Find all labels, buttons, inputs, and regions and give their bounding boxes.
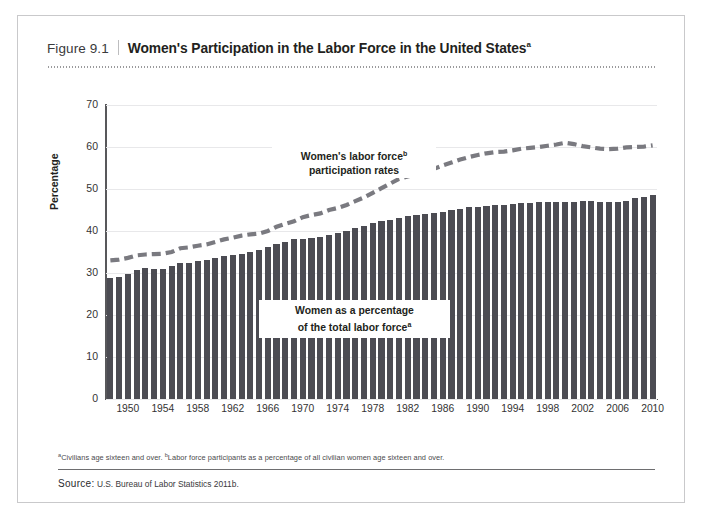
x-axis-tick-label: 1958: [181, 403, 215, 414]
x-axis-tick-label: 1966: [251, 403, 285, 414]
annotation-line-label: Women's labor forceb participation rates: [272, 146, 436, 178]
x-axis-tick-label: 1954: [146, 403, 180, 414]
x-axis-tick-label: 1962: [216, 403, 250, 414]
x-axis-tick-label: 1950: [111, 403, 145, 414]
x-axis-tick-label: 2010: [636, 403, 670, 414]
annotation-bar-label: Women as a percentage of the total labor…: [259, 300, 450, 338]
x-axis-tick-label: 2002: [566, 403, 600, 414]
x-axis-tick-label: 1974: [321, 403, 355, 414]
footnote: aCivilians age sixteen and over. bLabor …: [58, 452, 658, 462]
annotation-line-text-1: Women's labor force: [301, 151, 403, 162]
source-label: Source:: [58, 478, 95, 489]
x-axis-tick-label: 1978: [356, 403, 390, 414]
annotation-bar-text-2: of the total labor force: [298, 322, 408, 333]
source-line: Source: U.S. Bureau of Labor Statistics …: [58, 478, 239, 489]
source-text: U.S. Bureau of Labor Statistics 2011b.: [97, 479, 239, 489]
x-axis-tick-label: 1970: [286, 403, 320, 414]
x-axis-tick-label: 1982: [391, 403, 425, 414]
source-divider: [58, 469, 655, 470]
annotation-bar-text-1: Women as a percentage: [295, 305, 414, 316]
annotation-line-text-2: participation rates: [309, 165, 399, 176]
annotation-line-superscript: b: [403, 150, 407, 157]
chart-area: 010203040506070 Percentage 1950195419581…: [0, 0, 705, 518]
footnote-text-a: Civilians age sixteen and over.: [61, 453, 164, 462]
x-axis-tick-labels: 1950195419581962196619701974197819821986…: [0, 0, 705, 518]
x-axis-tick-label: 1990: [461, 403, 495, 414]
x-axis-tick-label: 1998: [531, 403, 565, 414]
footnote-text-b: Labor force participants as a percentage…: [168, 453, 445, 462]
x-axis-tick-label: 1994: [496, 403, 530, 414]
annotation-bar-superscript: a: [407, 321, 411, 328]
x-axis-tick-label: 1986: [426, 403, 460, 414]
x-axis-tick-label: 2006: [601, 403, 635, 414]
